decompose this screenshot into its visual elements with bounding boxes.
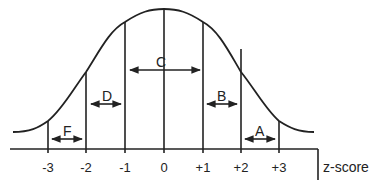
region-label-f: F	[63, 123, 72, 139]
tick-label-0: 0	[160, 160, 167, 175]
axis-title: z-score	[323, 159, 369, 175]
tick-label-plus-2: +2	[234, 160, 249, 175]
tick-label-minus-2: -2	[80, 160, 92, 175]
normal-distribution-diagram: C D B F A -3 -2 -1 0 +1 +2 +3 z-score	[0, 0, 377, 185]
tick-label-plus-3: +3	[272, 160, 287, 175]
tick-label-minus-3: -3	[42, 160, 54, 175]
region-label-b: B	[217, 88, 226, 104]
tick-label-minus-1: -1	[119, 160, 131, 175]
region-label-a: A	[255, 123, 265, 139]
region-label-c: C	[156, 54, 166, 70]
tick-label-plus-1: +1	[196, 160, 211, 175]
region-label-d: D	[102, 88, 112, 104]
